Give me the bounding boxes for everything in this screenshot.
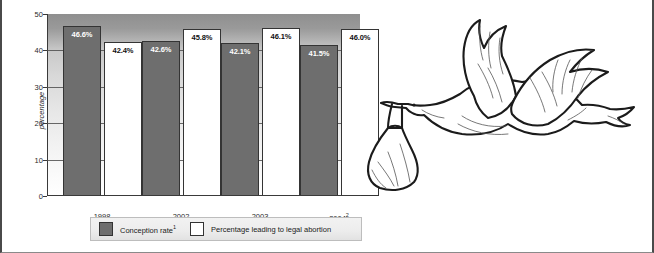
bar-value-label: 41.5% [309,49,330,58]
y-axis-title: percentage [37,66,46,156]
legend-label: Conception rate1 [120,224,176,235]
bar-value-label: 42.4% [113,46,134,55]
chart-figure: Conceptions and percentage leading to le… [0,0,654,253]
bar-value-label: 45.8% [192,33,213,42]
y-tick-30: 30 [34,82,43,91]
legend-swatch-light-icon [190,222,204,236]
y-axis: percentage 50 40 30 20 10 0 [2,14,43,196]
bar-value-label: 42.1% [230,47,251,56]
y-tick-20: 20 [34,119,43,128]
bar-conception-1998[interactable]: 46.6% [63,26,101,196]
bar-value-label: 42.6% [151,45,172,54]
y-tick-mark-50 [43,14,47,15]
legend-item-abortion-percentage[interactable]: Percentage leading to legal abortion [190,222,345,236]
legend-item-conception-rate[interactable]: Conception rate1 [99,222,190,236]
x-axis-line [47,195,361,196]
y-tick-50: 50 [34,10,43,19]
y-tick-40: 40 [34,46,43,55]
stork-illustration [362,12,652,198]
legend-swatch-dark-icon [99,222,113,236]
y-tick-10: 10 [34,155,43,164]
bar-conception-2002[interactable]: 42.6% [142,41,180,196]
bar-value-label: 46.1% [271,32,292,41]
bar-abortion-2003[interactable]: 46.1% [262,28,300,196]
bar-conception-2003[interactable]: 42.1% [221,43,259,196]
y-tick-mark-30 [43,87,47,88]
bar-conception-2004[interactable]: 41.5% [300,45,338,196]
legend-label: Percentage leading to legal abortion [211,225,331,234]
plot-area: 46.6% 42.4% 42.6% 45.8% 42.1% 46.1% 41.5… [47,14,360,196]
y-tick-mark-10 [43,160,47,161]
y-tick-mark-40 [43,50,47,51]
bar-abortion-2002[interactable]: 45.8% [183,29,221,196]
chart-legend: Conception rate1 Percentage leading to l… [90,217,362,241]
bar-value-label: 46.6% [72,30,93,39]
bar-abortion-1998[interactable]: 42.4% [104,42,142,196]
y-tick-mark-20 [43,123,47,124]
